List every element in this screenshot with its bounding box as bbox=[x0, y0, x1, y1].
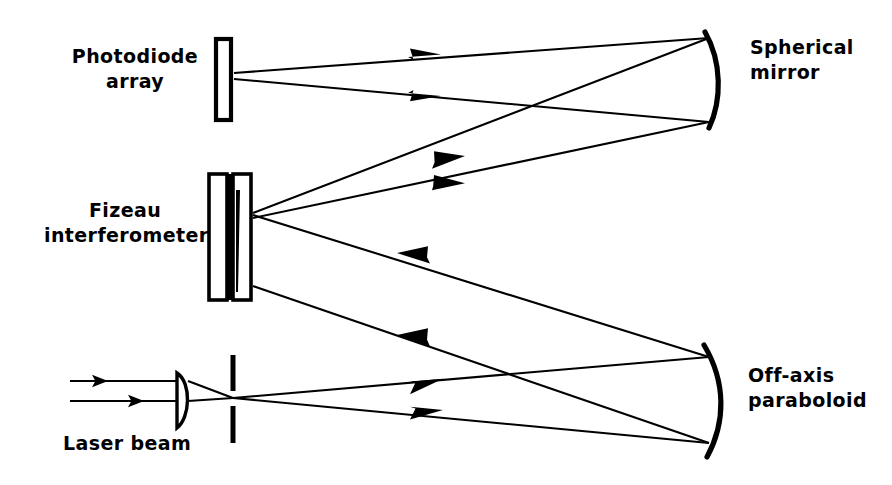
ray-laser-input-lower bbox=[70, 395, 176, 407]
label-spherical-mirror: Spherical mirror bbox=[750, 35, 890, 86]
label-laser-beam: Laser beam bbox=[63, 431, 243, 456]
ray-pinhole-to-paraboloid-upper bbox=[233, 357, 709, 398]
ray-pinhole-to-paraboloid-lower bbox=[233, 398, 709, 443]
ray-paraboloid-to-fizeau-lower bbox=[253, 286, 709, 443]
spherical-mirror-body bbox=[705, 32, 718, 128]
ray-fizeau-to-spherical-lower bbox=[253, 122, 709, 218]
label-fizeau-interferometer: Fizeau interferometer bbox=[44, 198, 206, 249]
ray-spherical-to-photodiode-upper bbox=[234, 38, 709, 73]
ray-lens-to-pinhole bbox=[188, 381, 233, 401]
photodiode-array-body bbox=[216, 39, 231, 120]
ray-paraboloid-to-fizeau-upper bbox=[253, 215, 709, 357]
fizeau-interferometer-body bbox=[209, 174, 251, 300]
ray-fizeau-to-spherical-upper bbox=[253, 38, 709, 213]
collimating-lens-body bbox=[177, 373, 188, 428]
ray-laser-input-upper bbox=[70, 375, 176, 387]
label-off-axis-paraboloid: Off-axis paraboloid bbox=[748, 363, 892, 414]
optical-diagram-figure: Photodiode array Fizeau interferometer L… bbox=[0, 0, 892, 485]
ray-spherical-to-photodiode-lower bbox=[234, 79, 709, 122]
off-axis-paraboloid-body bbox=[704, 345, 721, 457]
label-photodiode-array: Photodiode array bbox=[62, 44, 208, 95]
